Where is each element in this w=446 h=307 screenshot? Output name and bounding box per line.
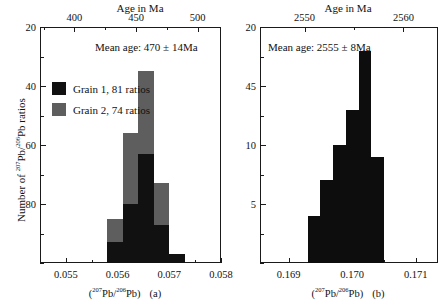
legend-a: Grain 1, 81 ratios Grain 2, 74 ratios bbox=[52, 80, 150, 122]
tick-left-minor-a bbox=[40, 57, 44, 58]
top-tick-label-a-1: 450 bbox=[128, 12, 144, 23]
bar-b-5-solid bbox=[371, 157, 384, 263]
bar-b-4-solid bbox=[359, 51, 372, 263]
y-tick-label-b-1: 45 bbox=[230, 81, 256, 92]
legend-label-grain2: Grain 2, 74 ratios bbox=[73, 104, 150, 116]
y-axis-label-a-pre: Number of bbox=[15, 171, 27, 222]
tick-left-minor-b bbox=[260, 57, 264, 58]
top-tick-label-a-0: 400 bbox=[67, 12, 83, 23]
tick-top-a bbox=[136, 27, 137, 32]
legend-item-grain1: Grain 1, 81 ratios bbox=[52, 80, 150, 97]
tick-left-minor-a bbox=[40, 263, 44, 264]
bar-b-1-solid bbox=[320, 180, 333, 263]
legend-label-grain1: Grain 1, 81 ratios bbox=[73, 83, 150, 95]
tick-bottom-a bbox=[66, 258, 67, 263]
x-caption-a-mid: Pb/ bbox=[102, 288, 116, 299]
tick-left-minor-b bbox=[260, 263, 264, 264]
y-tick-label-a-3: 20 bbox=[10, 22, 36, 33]
y-tick-label-b-3: 5 bbox=[230, 199, 256, 210]
tick-left-a bbox=[40, 145, 46, 146]
tick-left-b bbox=[260, 204, 266, 205]
tick-top-b bbox=[403, 27, 404, 32]
legend-swatch-grain1 bbox=[52, 82, 66, 95]
x-caption-b-post: Pb) bbox=[349, 288, 364, 299]
tick-top-minor-a bbox=[167, 27, 168, 30]
tick-left-a bbox=[40, 204, 46, 205]
tick-left-a bbox=[40, 27, 46, 28]
tick-left-minor-b bbox=[260, 234, 264, 235]
tick-left-minor-b bbox=[260, 116, 264, 117]
tick-top-b bbox=[305, 27, 306, 32]
y-axis-label-a: Number of 207Pb/206Pb ratios bbox=[14, 98, 27, 222]
bar-a-4-seg0 bbox=[169, 254, 185, 263]
tick-bottom-minor-a bbox=[195, 260, 196, 263]
panel-a: Age in Ma 400450500 0.0550.0560.0570.058… bbox=[0, 0, 230, 307]
mean-age-annotation-a: Mean age: 470 ± 14Ma bbox=[95, 41, 198, 53]
tick-left-a bbox=[40, 86, 46, 87]
bar-a-3-seg0 bbox=[154, 225, 170, 263]
x-caption-a-den: 206 bbox=[116, 286, 126, 293]
y-tick-label-b-2: 10 bbox=[230, 140, 256, 151]
tick-left-b bbox=[260, 86, 266, 87]
tick-top-minor-b bbox=[354, 27, 355, 30]
top-tick-label-b-0: 2550 bbox=[294, 12, 315, 23]
y-axis-label-a-mid: Pb/ bbox=[15, 147, 27, 162]
y-axis-label-a-post: Pb ratios bbox=[15, 98, 27, 137]
tick-top-minor-a bbox=[105, 27, 106, 30]
legend-item-grain2: Grain 2, 74 ratios bbox=[52, 101, 150, 118]
top-tick-label-b-1: 2560 bbox=[393, 12, 414, 23]
bottom-tick-label-b-1: 0.170 bbox=[340, 269, 364, 280]
bottom-tick-label-a-0: 0.055 bbox=[54, 269, 78, 280]
panel-label-b: (b) bbox=[372, 288, 384, 299]
bar-a-1-seg0 bbox=[123, 204, 139, 263]
y-axis-label-a-num: 207 bbox=[14, 162, 21, 172]
x-caption-a-num: 207 bbox=[92, 286, 102, 293]
y-tick-label-b-0: 20 bbox=[230, 22, 256, 33]
tick-left-minor-a bbox=[40, 116, 44, 117]
bar-a-2-seg0 bbox=[138, 154, 154, 263]
tick-left-b bbox=[260, 145, 266, 146]
y-axis-label-a-den: 206 bbox=[14, 137, 21, 147]
x-axis-caption-b: (207Pb/206Pb)(b) bbox=[312, 286, 385, 299]
legend-swatch-grain2 bbox=[52, 103, 66, 116]
figure-root: Age in Ma 400450500 0.0550.0560.0570.058… bbox=[0, 0, 446, 307]
tick-bottom-minor-a bbox=[92, 260, 93, 263]
bar-b-2-solid bbox=[333, 145, 346, 263]
mean-age-annotation-b: Mean age: 2555 ± 8Ma bbox=[268, 41, 371, 53]
tick-top-a bbox=[74, 27, 75, 32]
x-axis-caption-a: (207Pb/206Pb)(a) bbox=[89, 286, 161, 299]
tick-left-b bbox=[260, 27, 266, 28]
tick-top-a bbox=[198, 27, 199, 32]
y-tick-label-a-2: 40 bbox=[10, 81, 36, 92]
x-caption-b-mid: Pb/ bbox=[325, 288, 339, 299]
bar-a-0-seg1 bbox=[107, 219, 123, 243]
tick-left-minor-a bbox=[40, 234, 44, 235]
x-caption-b-den: 206 bbox=[339, 286, 349, 293]
panel-b: Age in Ma 25502560 0.1690.1700.171 20451… bbox=[228, 0, 446, 307]
bar-a-1-seg1 bbox=[123, 133, 139, 204]
bar-a-3-seg1 bbox=[154, 183, 170, 224]
tick-bottom-a bbox=[221, 258, 222, 263]
top-tick-label-a-2: 500 bbox=[190, 12, 206, 23]
tick-bottom-b bbox=[416, 258, 417, 263]
tick-bottom-minor-b bbox=[384, 260, 385, 263]
bar-b-0-solid bbox=[308, 216, 321, 263]
bar-a-0-seg0 bbox=[107, 242, 123, 263]
bottom-tick-label-a-2: 0.057 bbox=[157, 269, 181, 280]
bottom-tick-label-a-1: 0.056 bbox=[106, 269, 130, 280]
bottom-tick-label-b-2: 0.171 bbox=[404, 269, 428, 280]
tick-left-minor-b bbox=[260, 175, 264, 176]
bottom-tick-label-b-0: 0.169 bbox=[277, 269, 301, 280]
x-caption-a-post: Pb) bbox=[126, 288, 141, 299]
tick-bottom-b bbox=[289, 258, 290, 263]
x-caption-b-num: 207 bbox=[315, 286, 325, 293]
bar-b-3-solid bbox=[346, 110, 359, 263]
panel-label-a: (a) bbox=[149, 288, 161, 299]
tick-left-minor-a bbox=[40, 175, 44, 176]
